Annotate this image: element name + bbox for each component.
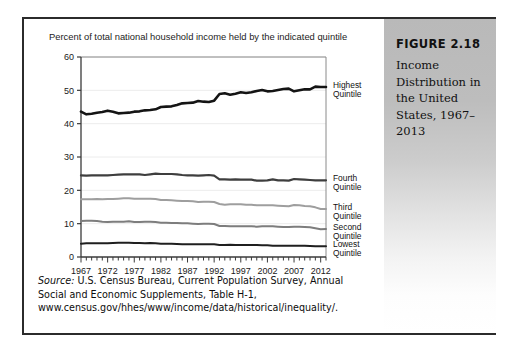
- series-labels-group: HighestQuintileFourthQuintileThirdQuinti…: [333, 80, 362, 258]
- figure-caption-inner: FIGURE 2.18 Income Distribution in the U…: [396, 37, 488, 140]
- series-line: [81, 243, 326, 247]
- series-label: Quintile: [333, 89, 362, 99]
- y-tick-label: 50: [64, 86, 74, 96]
- y-tick-label: 30: [64, 152, 74, 162]
- data-series-group: [81, 87, 326, 247]
- source-line-2: Social and Economic Supplements, Table H…: [38, 289, 257, 300]
- source-note: Source: U.S. Census Bureau, Current Popu…: [38, 274, 378, 315]
- series-label: Quintile: [333, 182, 362, 192]
- chart-container: Percent of total national household inco…: [24, 19, 384, 333]
- series-line: [81, 221, 326, 230]
- y-tick-label: 40: [64, 119, 74, 129]
- source-line-1: U.S. Census Bureau, Current Population S…: [74, 275, 343, 286]
- figure-border-box: Percent of total national household inco…: [22, 17, 496, 335]
- series-line: [81, 198, 326, 209]
- line-chart-svg: 0102030405060 19671972197719821987199219…: [24, 19, 384, 279]
- y-axis-ticks: 0102030405060: [64, 52, 81, 262]
- y-tick-label: 60: [64, 52, 74, 62]
- y-tick-label: 20: [64, 186, 74, 196]
- y-tick-label: 10: [64, 219, 74, 229]
- series-label: Quintile: [333, 211, 362, 221]
- y-tick-label: 0: [69, 252, 74, 262]
- figure-root: Percent of total national household inco…: [0, 0, 518, 354]
- figure-number: FIGURE 2.18: [396, 37, 488, 51]
- series-label: Quintile: [333, 248, 362, 258]
- figure-caption-text: Income Distribution in the United States…: [396, 57, 488, 140]
- series-line: [81, 174, 326, 181]
- figure-caption-panel: FIGURE 2.18 Income Distribution in the U…: [384, 19, 496, 333]
- source-label: Source:: [38, 275, 74, 286]
- source-line-3: www.census.gov/hhes/www/income/data/hist…: [38, 302, 338, 313]
